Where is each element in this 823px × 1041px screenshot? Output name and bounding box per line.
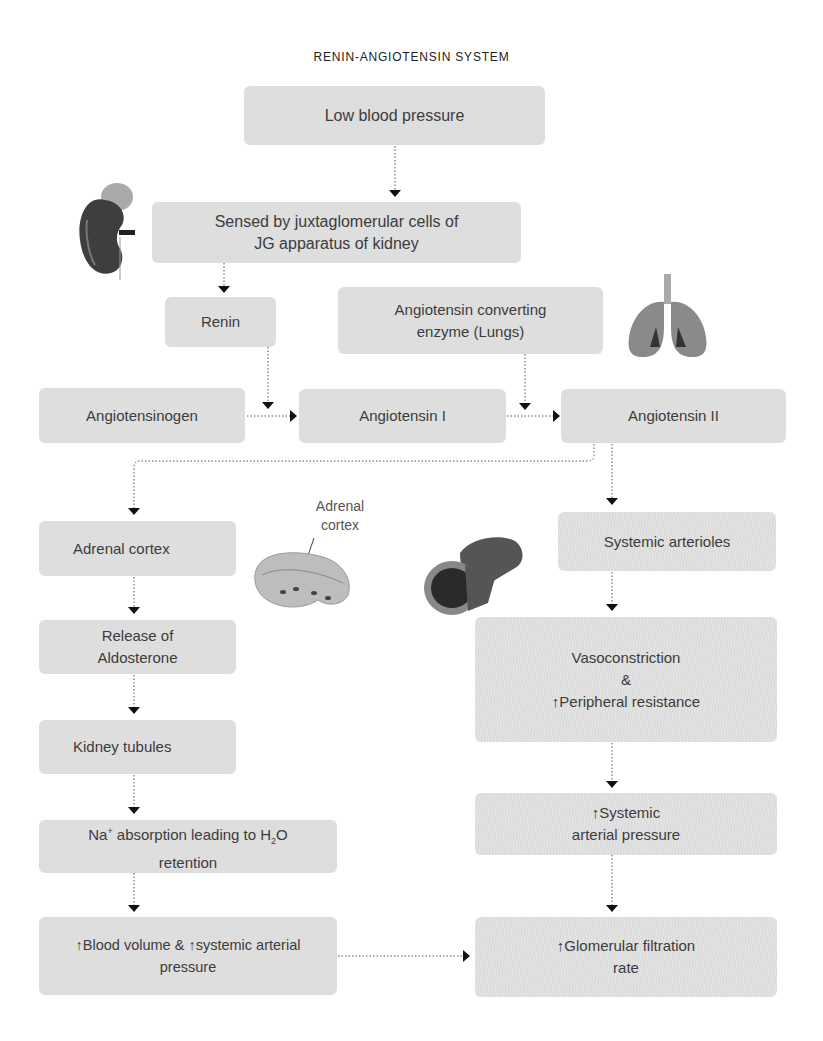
node-label: Adrenal cortex <box>73 538 170 560</box>
node-label-line2: retention <box>159 852 217 874</box>
node-angiotensinogen: Angiotensinogen <box>39 388 245 443</box>
systemic-text: Systemic <box>599 804 660 821</box>
callout-line1: Adrenal <box>300 497 380 516</box>
node-gfr: ↑Glomerular filtration rate <box>475 917 777 997</box>
up-arrow-icon: ↑ <box>188 937 195 953</box>
node-label-line2: arterial pressure <box>572 824 680 846</box>
node-label-line2: JG apparatus of kidney <box>254 233 419 255</box>
node-label-line2: & <box>621 669 631 691</box>
na-mid-text: absorption leading to H <box>113 826 271 843</box>
na-text: Na <box>88 826 107 843</box>
peripheral-resistance-text: Peripheral resistance <box>559 693 700 710</box>
node-label-line1: Sensed by juxtaglomerular cells of <box>215 211 459 233</box>
node-label: Angiotensin II <box>628 405 719 427</box>
node-vasoconstriction: Vasoconstriction & ↑Peripheral resistanc… <box>475 617 777 742</box>
node-na-absorption: Na+ absorption leading to H2O retention <box>39 820 337 873</box>
na-suffix-text: O <box>276 826 288 843</box>
node-label: Low blood pressure <box>325 105 465 127</box>
node-label: Angiotensin I <box>359 405 446 427</box>
node-release-aldosterone: Release of Aldosterone <box>39 620 236 674</box>
node-label: Systemic arterioles <box>604 531 731 553</box>
node-label-line1: Vasoconstriction <box>572 647 681 669</box>
systemic-arterial-text: systemic arterial <box>196 937 301 953</box>
up-arrow-icon: ↑ <box>76 937 83 953</box>
node-kidney-tubules: Kidney tubules <box>39 720 236 774</box>
node-label-line2: rate <box>613 957 639 979</box>
adrenal-cortex-callout: Adrenal cortex <box>300 497 380 535</box>
node-label-line2: pressure <box>160 956 216 978</box>
node-label-line1: Angiotensin converting <box>395 299 547 321</box>
node-label-line1: ↑Systemic <box>592 802 660 824</box>
node-blood-volume: ↑Blood volume & ↑systemic arterial press… <box>39 917 337 995</box>
node-label: Angiotensinogen <box>86 405 198 427</box>
adrenal-gland-icon <box>248 535 358 615</box>
artery-icon <box>420 533 530 618</box>
node-label-line1: Na+ absorption leading to H2O <box>88 820 288 852</box>
gfr-text: Glomerular filtration <box>564 937 695 954</box>
callout-line2: cortex <box>300 516 380 535</box>
node-renin: Renin <box>165 297 276 347</box>
node-label-line2: enzyme (Lungs) <box>417 321 525 343</box>
node-adrenal-cortex: Adrenal cortex <box>39 521 236 576</box>
node-label: Kidney tubules <box>73 736 171 758</box>
node-label: Renin <box>201 311 240 333</box>
node-angiotensin-i: Angiotensin I <box>299 389 506 443</box>
node-label-line1: Release of <box>102 625 174 647</box>
node-low-blood-pressure: Low blood pressure <box>244 86 545 145</box>
node-label-line2: Aldosterone <box>97 647 177 669</box>
lungs-icon <box>620 272 715 362</box>
blood-volume-text: Blood volume & <box>83 937 189 953</box>
kidney-icon <box>75 175 145 285</box>
node-systemic-arterial-pressure: ↑Systemic arterial pressure <box>475 793 777 855</box>
node-jg-sensing: Sensed by juxtaglomerular cells of JG ap… <box>152 202 521 263</box>
node-label-line3: ↑Peripheral resistance <box>552 691 700 713</box>
node-label-line1: ↑Blood volume & ↑systemic arterial <box>76 934 301 956</box>
node-systemic-arterioles: Systemic arterioles <box>558 512 776 571</box>
node-label-line1: ↑Glomerular filtration <box>557 935 695 957</box>
node-angiotensin-ii: Angiotensin II <box>561 389 786 443</box>
node-ace: Angiotensin converting enzyme (Lungs) <box>338 287 603 354</box>
